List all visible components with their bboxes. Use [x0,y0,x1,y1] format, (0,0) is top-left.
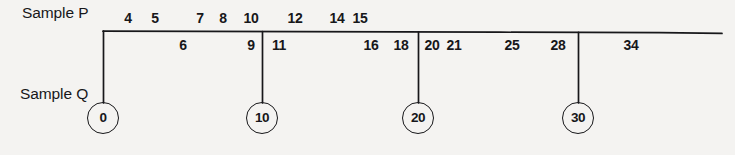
horizontal-axis-line [103,31,722,33]
leaf-below: 25 [505,38,520,52]
stem-value: 30 [571,111,585,125]
stem-circle: 0 [87,102,119,134]
leaf-above: 4 [124,11,132,25]
leaf-below: 28 [551,38,566,52]
leaf-below: 9 [247,38,255,52]
leaf-above: 10 [244,11,259,25]
stem-circle: 10 [246,102,278,134]
leaf-above: 12 [288,11,303,25]
leaf-above: 8 [219,11,227,25]
leaf-above: 15 [353,11,368,25]
leaf-below: 16 [364,38,379,52]
leaf-below: 21 [447,38,462,52]
sample-p-label: Sample P [22,5,88,21]
stem-circle: 30 [562,102,594,134]
leaf-below: 20 [425,38,440,52]
leaf-below: 34 [624,38,639,52]
stem-circle: 20 [402,102,434,134]
sample-q-label: Sample Q [20,86,88,102]
leaf-below: 6 [179,38,187,52]
leaf-below: 18 [394,38,409,52]
leaf-above: 7 [196,11,204,25]
leaf-above: 5 [151,11,159,25]
stem-value: 10 [255,111,269,125]
leaf-above: 14 [330,11,345,25]
stem-number-line-figure: Sample P Sample Q 4 5 7 8 10 12 14 15 6 … [0,0,735,155]
leaf-below: 11 [272,38,286,52]
stem-value: 0 [99,111,106,125]
stem-value: 20 [411,111,425,125]
